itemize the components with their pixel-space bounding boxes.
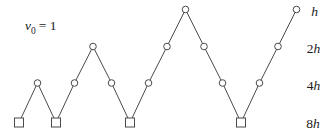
level-label-variable: h xyxy=(314,41,321,56)
walk-edge xyxy=(130,83,149,123)
walk-vertex-circle xyxy=(34,80,41,87)
walk-edge xyxy=(38,83,57,123)
level-label-variable: h xyxy=(313,116,320,131)
walk-vertex-circle xyxy=(164,43,171,50)
walk-edge xyxy=(204,47,223,84)
walk-vertex-circle xyxy=(145,80,152,87)
level-label-variable: h xyxy=(311,4,318,19)
walk-vertex-circle xyxy=(201,43,208,50)
walk-vertex-square xyxy=(52,118,61,127)
level-label-variable: h xyxy=(314,78,321,93)
walk-edge xyxy=(75,47,94,84)
walk-vertex-circle xyxy=(90,43,97,50)
walk-edge xyxy=(93,47,112,84)
walk-edge xyxy=(149,47,168,84)
walk-vertex-circle xyxy=(293,6,300,13)
walk-edge xyxy=(167,10,186,47)
walk-edge xyxy=(56,83,75,123)
initial-value-subscript: 0 xyxy=(31,26,36,36)
level-label-coefficient: 4 xyxy=(307,78,314,93)
level-label-2h: 2h xyxy=(307,42,321,56)
walk-edge xyxy=(278,10,297,47)
walk-vertex-circle xyxy=(275,43,282,50)
walk-vertex-circle xyxy=(256,80,263,87)
level-label-h: h xyxy=(311,5,318,19)
walk-edge xyxy=(260,47,279,84)
initial-value-label: v0= 1 xyxy=(25,18,57,36)
walk-edge xyxy=(223,83,242,123)
level-label-4h: 4h xyxy=(307,79,321,93)
path-diagram: v0= 1 h2h4h8h xyxy=(0,0,334,137)
walk-edge xyxy=(19,83,38,123)
walk-vertex-circle xyxy=(219,80,226,87)
walk-vertex-circle xyxy=(182,6,189,13)
walk-edge xyxy=(112,83,131,123)
walk-vertex-square xyxy=(237,118,246,127)
walk-vertex-square xyxy=(15,118,24,127)
level-label-8h: 8h xyxy=(306,117,320,131)
level-label-coefficient: 8 xyxy=(306,116,313,131)
walk-vertex-square xyxy=(126,118,135,127)
level-label-coefficient: 2 xyxy=(307,41,314,56)
walk-vertex-circle xyxy=(108,80,115,87)
walk-vertex-circle xyxy=(71,80,78,87)
initial-value-relation: = 1 xyxy=(39,18,57,33)
walk-edge xyxy=(186,10,205,47)
walk-edge xyxy=(241,83,260,123)
